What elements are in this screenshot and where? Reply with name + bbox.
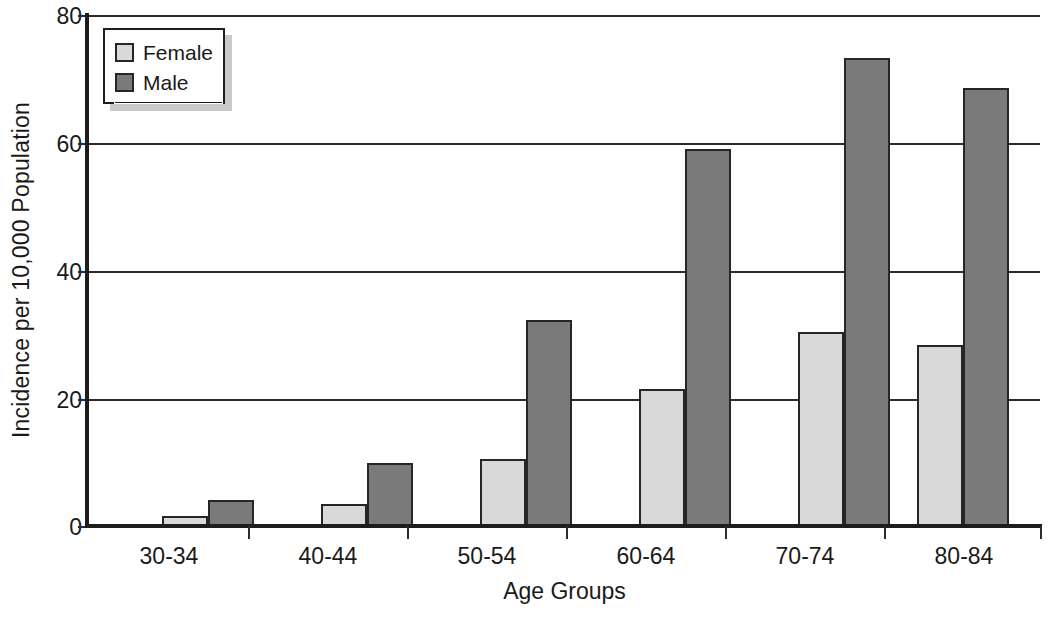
x-tick-label-80-84: 80-84 (884, 543, 1044, 570)
x-tick-mark-6 (1040, 526, 1042, 539)
y-tick-label-0: 0 (22, 516, 82, 539)
bar-male-40-44 (367, 463, 413, 526)
bar-female-50-54 (480, 459, 526, 526)
bar-chart: Incidence per 10,000 Population 80 60 40… (0, 0, 1049, 618)
bar-male-70-74 (844, 58, 890, 526)
legend-inner: Female Male (114, 36, 223, 104)
y-axis-line (85, 13, 89, 528)
x-tick-label-70-74: 70-74 (725, 543, 885, 570)
y-tick-label-40: 40 (22, 261, 82, 284)
bar-male-80-84 (963, 88, 1009, 526)
x-tick-mark-5 (884, 526, 886, 539)
legend-swatch-male-icon (115, 73, 134, 92)
legend: Female Male (103, 28, 225, 104)
bar-female-60-64 (639, 389, 685, 526)
x-tick-mark-1 (248, 526, 250, 539)
y-tick-label-20: 20 (22, 389, 82, 412)
x-axis-line (85, 524, 1042, 528)
gridline-40 (89, 271, 1040, 273)
x-tick-mark-4 (725, 526, 727, 539)
bar-female-70-74 (798, 332, 844, 526)
bar-male-50-54 (526, 320, 572, 526)
gridline-80 (89, 15, 1040, 17)
bar-female-40-44 (321, 504, 367, 526)
legend-label-male: Male (143, 72, 189, 93)
legend-swatch-female-icon (115, 43, 134, 62)
legend-label-female: Female (143, 42, 213, 63)
y-tick-label-60: 60 (22, 133, 82, 156)
x-tick-label-40-44: 40-44 (248, 543, 408, 570)
x-tick-label-50-54: 50-54 (407, 543, 567, 570)
x-tick-mark-2 (407, 526, 409, 539)
y-tick-label-80: 80 (22, 5, 82, 28)
x-axis-title: Age Groups (89, 578, 1040, 605)
x-tick-label-30-34: 30-34 (89, 543, 249, 570)
bar-male-60-64 (685, 149, 731, 526)
x-tick-label-60-64: 60-64 (566, 543, 726, 570)
x-tick-mark-3 (566, 526, 568, 539)
bar-male-30-34 (208, 500, 254, 526)
bar-female-80-84 (917, 345, 963, 526)
legend-item-female: Female (115, 37, 222, 67)
gridline-60 (89, 143, 1040, 145)
legend-item-male: Male (115, 67, 222, 97)
